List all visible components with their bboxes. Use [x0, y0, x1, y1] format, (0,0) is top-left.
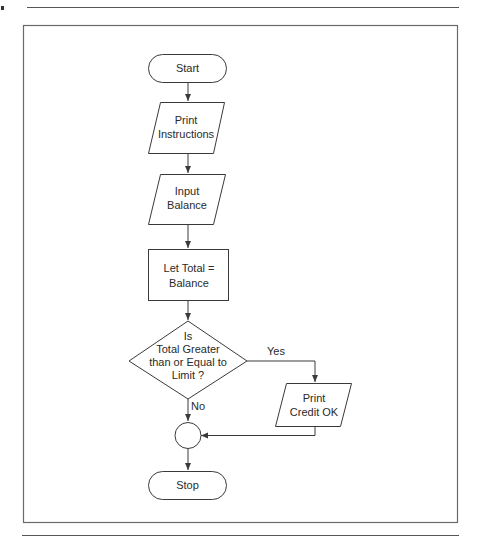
print-credit-line2: Credit OK — [278, 405, 350, 419]
print-credit-line1: Print — [278, 391, 350, 405]
figure-frame — [24, 26, 458, 523]
connector-circle — [175, 423, 201, 449]
decision-line1: Is — [138, 329, 238, 343]
input-balance-line1: Input — [150, 184, 224, 198]
let-total-line2: Balance — [149, 276, 229, 290]
decision-line4: Limit ? — [138, 368, 238, 382]
no-label: No — [191, 399, 211, 413]
print-instructions-line2: Instructions — [150, 127, 222, 141]
flowchart-canvas — [0, 0, 478, 543]
decision-line2: Total Greater — [138, 342, 238, 356]
let-total-line1: Let Total = — [149, 261, 229, 275]
input-balance-line2: Balance — [150, 198, 224, 212]
decision-line3: than or Equal to — [138, 355, 238, 369]
edge-credit-connector — [201, 427, 315, 436]
edge-yes — [247, 361, 315, 382]
let-total-shape — [149, 250, 229, 301]
stop-label: Stop — [148, 478, 227, 492]
start-label: Start — [148, 61, 227, 75]
page-mark — [1, 6, 4, 10]
print-instructions-line1: Print — [150, 113, 222, 127]
yes-label: Yes — [262, 344, 290, 358]
